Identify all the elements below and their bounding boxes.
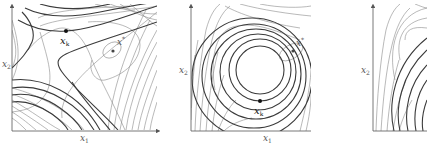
xstar-point bbox=[291, 49, 294, 52]
panel-right-y-axis-label: x2 bbox=[361, 66, 370, 76]
panel-middle-y-axis-label: x2 bbox=[179, 66, 188, 76]
thick-contours bbox=[392, 38, 427, 131]
panel-left-x-axis-label: x1 bbox=[80, 134, 89, 144]
thick-contours bbox=[192, 18, 312, 138]
bottom-left-fan bbox=[12, 20, 84, 130]
thin-contours bbox=[12, 4, 157, 130]
panel-left-y-axis-label: x2 bbox=[2, 60, 11, 70]
xk-point bbox=[258, 99, 262, 103]
thin-contours bbox=[191, 4, 311, 131]
left-fan bbox=[191, 4, 252, 131]
panel-middle-xk-label: xk bbox=[254, 106, 263, 117]
panel-middle-xstar-label: x* bbox=[296, 37, 304, 48]
right-fan bbox=[108, 10, 157, 130]
thick-contours bbox=[12, 2, 157, 130]
panel-left-xk-label: xk bbox=[60, 36, 69, 47]
xk-point bbox=[64, 29, 68, 33]
panel-middle bbox=[191, 4, 312, 138]
panel-middle-x-axis-label: x1 bbox=[263, 134, 272, 144]
panel-left-xstar-label: x* bbox=[117, 36, 125, 47]
panel-left bbox=[12, 2, 158, 131]
thin-contours bbox=[376, 4, 427, 131]
panel-right bbox=[373, 4, 427, 131]
xstar-point bbox=[111, 49, 114, 52]
